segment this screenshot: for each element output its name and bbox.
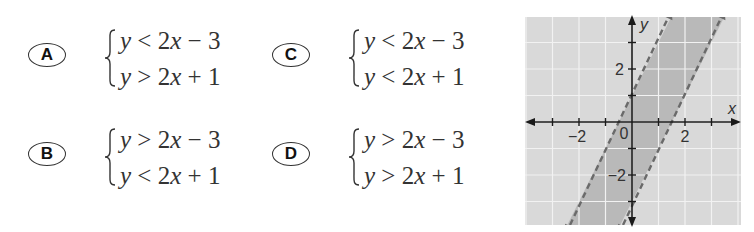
inequality-lhs: y bbox=[364, 63, 375, 90]
inequality-rhs: 2x + 1 bbox=[158, 63, 221, 90]
inequality-rhs: 2x − 3 bbox=[158, 27, 221, 54]
choice-badge[interactable]: D bbox=[272, 142, 310, 166]
x-tick-label: 2 bbox=[681, 128, 690, 145]
inequality-1: y > 2x − 3 bbox=[364, 126, 464, 154]
inequality-operator: < bbox=[381, 63, 395, 90]
y-tick-label: −2 bbox=[608, 167, 626, 184]
choice-d[interactable]: D y > 2x − 3 y > 2x + 1 bbox=[272, 115, 502, 195]
brace-icon bbox=[104, 128, 116, 186]
inequality-rhs: 2x + 1 bbox=[402, 63, 465, 90]
brace-icon bbox=[348, 128, 360, 186]
inequality-operator: < bbox=[381, 27, 395, 54]
inequality-2: y < 2x + 1 bbox=[120, 162, 220, 190]
choice-badge[interactable]: C bbox=[272, 43, 310, 67]
x-tick-label: −2 bbox=[568, 128, 586, 145]
inequality-lhs: y bbox=[120, 162, 131, 189]
y-tick-label: 2 bbox=[615, 61, 624, 78]
inequality-lhs: y bbox=[120, 126, 131, 153]
inequality-1: y > 2x − 3 bbox=[120, 126, 220, 154]
inequality-operator: > bbox=[137, 63, 151, 90]
inequality-operator: > bbox=[381, 126, 395, 153]
inequality-lhs: y bbox=[120, 27, 131, 54]
brace-icon bbox=[348, 29, 360, 87]
choice-b[interactable]: B y > 2x − 3 y < 2x + 1 bbox=[28, 115, 258, 195]
inequality-operator: > bbox=[381, 162, 395, 189]
inequality-2: y > 2x + 1 bbox=[120, 63, 220, 91]
inequality-1: y < 2x − 3 bbox=[364, 27, 464, 55]
inequality-lhs: y bbox=[364, 27, 375, 54]
choice-badge[interactable]: A bbox=[28, 43, 66, 67]
inequality-1: y < 2x − 3 bbox=[120, 27, 220, 55]
brace-icon bbox=[104, 29, 116, 87]
inequality-2: y > 2x + 1 bbox=[364, 162, 464, 190]
choice-c[interactable]: C y < 2x − 3 y < 2x + 1 bbox=[272, 16, 502, 96]
choice-badge[interactable]: B bbox=[28, 142, 66, 166]
inequality-rhs: 2x − 3 bbox=[402, 27, 465, 54]
inequality-operator: < bbox=[137, 162, 151, 189]
inequality-rhs: 2x + 1 bbox=[402, 162, 465, 189]
choice-a[interactable]: A y < 2x − 3 y > 2x + 1 bbox=[28, 16, 258, 96]
inequality-operator: < bbox=[137, 27, 151, 54]
inequality-rhs: 2x + 1 bbox=[158, 162, 221, 189]
y-axis-label: y bbox=[639, 16, 649, 33]
inequality-rhs: 2x − 3 bbox=[158, 126, 221, 153]
origin-label: 0 bbox=[620, 125, 629, 142]
inequality-lhs: y bbox=[120, 63, 131, 90]
inequality-lhs: y bbox=[364, 126, 375, 153]
inequality-operator: > bbox=[137, 126, 151, 153]
inequality-lhs: y bbox=[364, 162, 375, 189]
x-axis-label: x bbox=[727, 100, 737, 117]
inequality-rhs: 2x − 3 bbox=[402, 126, 465, 153]
inequality-graph: xy0−222−2 bbox=[520, 12, 746, 230]
inequality-2: y < 2x + 1 bbox=[364, 63, 464, 91]
